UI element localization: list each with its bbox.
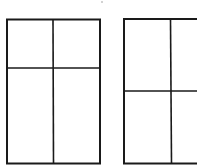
right-window (124, 19, 197, 164)
left-window-vertical-divider (53, 20, 54, 164)
diagram-canvas (0, 0, 197, 168)
stray-mark (101, 1, 103, 3)
left-window (7, 20, 100, 164)
